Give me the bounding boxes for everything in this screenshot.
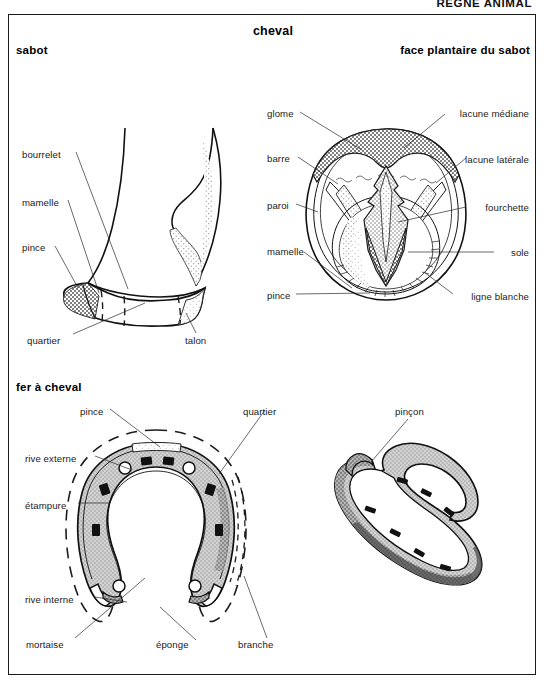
label-mamelle-sabot: mamelle [22,198,59,208]
label-ligne-blanche: ligne blanche [471,292,529,302]
label-glome: glome [267,109,294,119]
label-pince-plantaire: pince [267,291,290,301]
figure-face-plantaire [296,112,494,300]
label-eponge: éponge [156,640,189,650]
label-pincon: pinçon [395,407,424,417]
label-lacune-mediane: lacune médiane [460,109,529,119]
label-bourrelet: bourrelet [22,150,61,160]
label-quartier-fer: quartier [243,407,276,417]
label-fourchette: fourchette [485,203,529,213]
plate-artwork [0,0,546,689]
label-barre: barre [267,154,290,164]
label-branche: branche [238,640,273,650]
label-pince-sabot: pince [22,243,45,253]
label-paroi: paroi [267,201,289,211]
label-mortaise: mortaise [26,640,64,650]
label-rive-interne: rive interne [25,595,74,605]
figure-sabot [55,128,221,334]
figure-fer-perspective [335,419,482,585]
label-lacune-laterale: lacune latérale [465,155,529,165]
label-mamelle-plantaire: mamelle [267,247,304,257]
label-rive-externe: rive externe [25,454,76,464]
figure-fer-a-cheval [66,409,267,640]
label-pince-fer: pince [80,407,103,417]
label-quartier-sabot: quartier [27,336,60,346]
label-sole: sole [511,248,529,258]
label-talon: talon [185,336,206,346]
label-etampure: étampure [25,501,66,511]
